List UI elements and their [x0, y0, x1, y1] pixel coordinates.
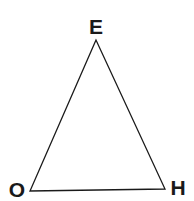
vertex-label-e: E: [89, 15, 103, 38]
triangle-diagram: E O H: [0, 0, 194, 201]
triangle-EOH: [30, 40, 165, 191]
vertex-label-o: O: [9, 178, 25, 201]
vertex-label-h: H: [170, 176, 185, 199]
